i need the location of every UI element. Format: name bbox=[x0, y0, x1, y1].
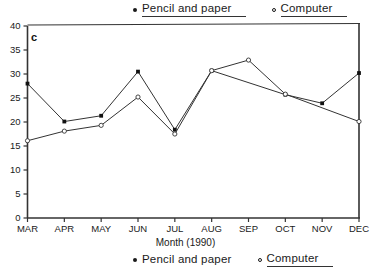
data-point-filled bbox=[357, 71, 361, 75]
data-point-filled bbox=[62, 120, 66, 124]
x-axis-ticks: MARAPRMAYJUNJULAUGSEPOCTNOVDEC bbox=[17, 218, 369, 234]
chart-figure: Pencil and paper Computer 05101520253035… bbox=[0, 0, 371, 271]
data-point-filled bbox=[136, 70, 140, 74]
x-tick-label: DEC bbox=[349, 223, 369, 234]
y-tick-label: 20 bbox=[10, 116, 21, 127]
y-tick-label: 25 bbox=[10, 92, 21, 103]
data-point-open bbox=[246, 58, 250, 62]
x-tick-label: JUN bbox=[129, 223, 148, 234]
y-tick-label: 15 bbox=[10, 140, 21, 151]
data-point-filled bbox=[320, 101, 324, 105]
data-point-open bbox=[136, 95, 140, 99]
data-point-open bbox=[25, 139, 29, 143]
data-point-open bbox=[283, 92, 287, 96]
data-point-filled bbox=[26, 82, 30, 86]
data-point-open bbox=[99, 123, 103, 127]
data-point-open bbox=[210, 69, 214, 73]
legend-label-pencil-and-paper-bottom: Pencil and paper bbox=[142, 253, 232, 266]
y-tick-label: 30 bbox=[10, 68, 21, 79]
y-tick-label: 35 bbox=[10, 44, 21, 55]
series-line bbox=[28, 71, 360, 130]
x-tick-label: APR bbox=[55, 223, 75, 234]
x-tick-label: MAR bbox=[17, 223, 38, 234]
y-tick-label: 5 bbox=[15, 188, 20, 199]
data-point-open bbox=[357, 119, 361, 123]
data-point-open bbox=[62, 129, 66, 133]
legend-entry-pencil-and-paper-bottom: Pencil and paper bbox=[133, 253, 232, 266]
x-tick-label: SEP bbox=[239, 223, 258, 234]
y-axis-ticks: 0510152025303540 bbox=[10, 20, 28, 223]
data-series-layer bbox=[25, 58, 361, 143]
legend-entry-computer-bottom: Computer bbox=[258, 252, 333, 267]
legend-label-computer-bottom: Computer bbox=[267, 252, 333, 267]
x-tick-label: JUL bbox=[166, 223, 183, 234]
x-tick-label: NOV bbox=[312, 223, 333, 234]
data-point-open bbox=[173, 132, 177, 136]
data-point-filled bbox=[99, 114, 103, 118]
open-circle-marker-icon bbox=[258, 258, 262, 262]
y-tick-label: 0 bbox=[15, 212, 20, 223]
x-tick-label: MAY bbox=[91, 223, 112, 234]
panel-label: c bbox=[31, 31, 37, 43]
plot-area: 0510152025303540 MARAPRMAYJUNJULAUGSEPOC… bbox=[0, 0, 371, 271]
y-tick-label: 40 bbox=[10, 20, 21, 31]
x-tick-label: OCT bbox=[275, 223, 295, 234]
legend-bottom: Pencil and paper Computer bbox=[133, 252, 333, 267]
filled-circle-marker-icon bbox=[133, 258, 137, 262]
x-axis-title: Month (1990) bbox=[0, 237, 371, 248]
axes-frame bbox=[28, 24, 361, 219]
y-tick-label: 10 bbox=[10, 164, 21, 175]
x-tick-label: AUG bbox=[201, 223, 222, 234]
